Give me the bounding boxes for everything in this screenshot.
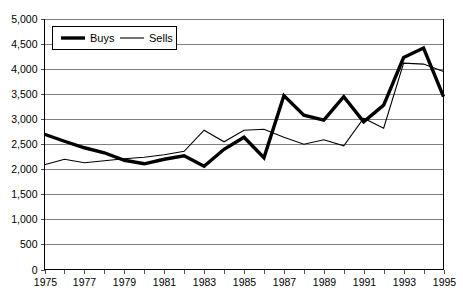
x-tick-label: 1995 [433,276,457,288]
chart-canvas: 05001,0001,5002,0002,5003,0003,5004,0004… [0,0,463,301]
y-tick-label: 4,500 [11,38,37,50]
x-tick-label: 1977 [73,276,97,288]
x-tick-label: 1993 [393,276,417,288]
x-tick-label: 1987 [273,276,297,288]
y-tick-label: 2,500 [11,138,37,150]
y-tick-label: 3,000 [11,113,37,125]
y-tick-label: 500 [20,238,38,250]
y-tick-label: 3,500 [11,88,37,100]
x-tick-label: 1983 [193,276,217,288]
y-tick-label: 4,000 [11,63,37,75]
legend-label-sells: Sells [149,32,173,44]
x-tick-label: 1989 [313,276,337,288]
x-tick-label: 1981 [153,276,177,288]
y-tick-label: 2,000 [11,163,37,175]
y-tick-label: 1,000 [11,213,37,225]
chart-legend: Buys Sells [53,27,177,50]
y-tick-label: 1,500 [11,188,37,200]
x-tick-label: 1985 [233,276,257,288]
x-tick-label: 1979 [113,276,137,288]
legend-label-buys: Buys [90,32,115,44]
line-chart: 05001,0001,5002,0002,5003,0003,5004,0004… [0,0,463,301]
x-tick-label: 1991 [353,276,377,288]
y-tick-label: 0 [32,264,38,276]
y-tick-label: 5,000 [11,13,37,25]
x-tick-label: 1975 [34,276,58,288]
